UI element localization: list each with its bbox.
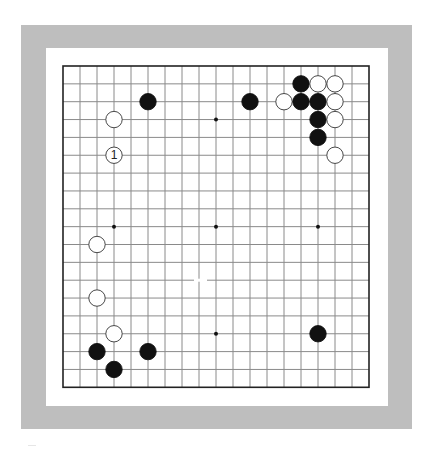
white-stone [327,147,343,163]
black-stone [140,343,156,359]
white-stone [327,111,343,127]
black-stone [310,111,326,127]
black-stone [310,129,326,145]
black-stone [293,94,309,110]
line-gap [194,279,207,282]
black-stone [310,94,326,110]
star-point [112,225,116,229]
star-point [214,225,218,229]
black-stone [310,326,326,342]
white-stone: 1 [106,147,122,163]
white-stone [89,236,105,252]
black-stone [242,94,258,110]
white-stone [327,76,343,92]
star-point [316,225,320,229]
white-stone [276,94,292,110]
white-stone [106,111,122,127]
black-stone [106,361,122,377]
star-point [214,118,218,122]
scan-artifact [28,445,36,446]
white-stone [327,94,343,110]
black-stone [89,343,105,359]
go-board: 1 [0,0,435,451]
black-stone [293,76,309,92]
star-point [214,332,218,336]
white-stone [310,76,326,92]
move-number-label: 1 [111,148,118,162]
white-stone [89,290,105,306]
black-stone [140,94,156,110]
white-stone [106,326,122,342]
